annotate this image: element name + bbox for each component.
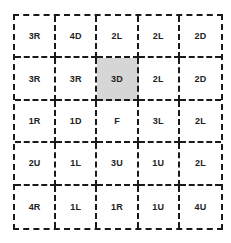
grid-cell-r4-c3[interactable]: 1U <box>139 186 180 228</box>
grid-cell-r4-c2[interactable]: 1R <box>97 186 138 228</box>
puzzle-grid: 3R 4D 2L 2L 2D 3R 3R 3D 2L 2D 1R 1D F 3L… <box>13 14 223 230</box>
grid-cell-r0-c4[interactable]: 2D <box>180 16 221 58</box>
grid-cell-r2-c4[interactable]: 2L <box>180 101 221 143</box>
grid-cell-r0-c0[interactable]: 3R <box>15 16 56 58</box>
grid-cell-r3-c4[interactable]: 2L <box>180 143 221 185</box>
grid-cell-r1-c3[interactable]: 2L <box>139 58 180 100</box>
grid-cell-r1-c4[interactable]: 2D <box>180 58 221 100</box>
grid-cell-r3-c2[interactable]: 3U <box>97 143 138 185</box>
grid-cell-r1-c1[interactable]: 3R <box>56 58 97 100</box>
grid-cell-r0-c1[interactable]: 4D <box>56 16 97 58</box>
grid-cell-r2-c1[interactable]: 1D <box>56 101 97 143</box>
grid-cell-r4-c1[interactable]: 1L <box>56 186 97 228</box>
grid-cell-r2-c3[interactable]: 3L <box>139 101 180 143</box>
grid-cell-r4-c0[interactable]: 4R <box>15 186 56 228</box>
grid-cell-r1-c2-highlighted[interactable]: 3D <box>97 58 138 100</box>
grid-cell-r1-c0[interactable]: 3R <box>15 58 56 100</box>
grid-cell-r0-c2[interactable]: 2L <box>97 16 138 58</box>
grid-cell-r4-c4[interactable]: 4U <box>180 186 221 228</box>
grid-cell-r3-c0[interactable]: 2U <box>15 143 56 185</box>
grid-cell-r3-c1[interactable]: 1L <box>56 143 97 185</box>
grid-cell-r0-c3[interactable]: 2L <box>139 16 180 58</box>
grid-cell-r2-c2-finish[interactable]: F <box>97 101 138 143</box>
grid-cell-r3-c3[interactable]: 1U <box>139 143 180 185</box>
grid-cell-r2-c0[interactable]: 1R <box>15 101 56 143</box>
